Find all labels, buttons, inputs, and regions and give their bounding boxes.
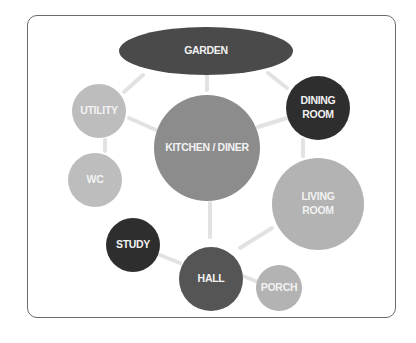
porch-label: PORCH bbox=[261, 281, 297, 293]
living-label: LIVING bbox=[301, 190, 334, 202]
living-label: ROOM bbox=[302, 204, 334, 216]
connector-garden-dining bbox=[268, 73, 287, 88]
room-node-hall: HALL bbox=[179, 247, 243, 311]
room-nodes: GARDENKITCHEN / DINERUTILITYWCDININGROOM… bbox=[68, 27, 364, 311]
kitchen-label: KITCHEN / DINER bbox=[165, 141, 249, 153]
connector-living-hall bbox=[240, 228, 272, 248]
connector-garden-utility bbox=[124, 75, 143, 92]
room-node-utility: UTILITY bbox=[72, 84, 126, 138]
room-node-dining: DININGROOM bbox=[286, 76, 350, 140]
room-node-porch: PORCH bbox=[256, 265, 302, 311]
wc-label: WC bbox=[87, 173, 105, 185]
room-node-kitchen: KITCHEN / DINER bbox=[154, 95, 260, 201]
study-label: STUDY bbox=[116, 238, 150, 250]
room-node-study: STUDY bbox=[106, 218, 160, 272]
room-node-wc: WC bbox=[68, 153, 122, 207]
utility-label: UTILITY bbox=[80, 104, 118, 116]
connector-hall-porch bbox=[243, 276, 258, 282]
connector-study-hall bbox=[160, 255, 180, 263]
room-node-living: LIVINGROOM bbox=[272, 158, 364, 250]
dining-label: DINING bbox=[301, 94, 336, 106]
connector-kitchen-dining bbox=[258, 118, 287, 127]
hall-label: HALL bbox=[198, 272, 226, 284]
connector-utility-kitchen bbox=[129, 118, 156, 130]
room-node-garden: GARDEN bbox=[119, 27, 293, 75]
room-adjacency-diagram: GARDENKITCHEN / DINERUTILITYWCDININGROOM… bbox=[0, 0, 416, 343]
garden-label: GARDEN bbox=[184, 44, 228, 56]
dining-label: ROOM bbox=[302, 108, 334, 120]
